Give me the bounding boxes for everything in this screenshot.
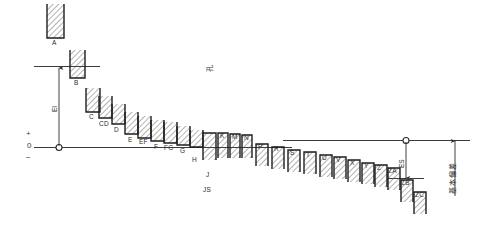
bar-letter-label: ZB (401, 180, 410, 187)
bar-letter-label: P (258, 144, 263, 151)
tolerance-bar-hatch (203, 133, 216, 160)
tolerance-bar (47, 4, 64, 38)
tolerance-bar (70, 50, 85, 78)
tolerance-bar (86, 88, 100, 112)
bar-letter-label: G (180, 148, 185, 155)
bars-layer (47, 4, 426, 214)
bar-letter-label: K (220, 133, 225, 140)
bar-letter-label: S (290, 150, 295, 157)
tolerance-bar-hatch (125, 112, 138, 134)
bar-letter-label: E (128, 137, 133, 144)
zero-sign-label: 0 (27, 142, 32, 150)
tolerance-bar (112, 104, 125, 124)
tolerance-bar-hatch (47, 4, 64, 38)
tolerance-bar-hatch (164, 122, 177, 143)
tolerance-bar (177, 126, 190, 145)
tolerance-bar-hatch (190, 130, 203, 147)
tolerance-zone-diagram: + 0 − EI ES 孔 基本偏差 JS ABCCDDEEFFFGGHJKMN… (0, 0, 491, 228)
bar-letter-label: V (336, 157, 341, 164)
bar-letter-label: ZC (415, 192, 424, 199)
bar-letter-label: X (350, 160, 355, 167)
bar-letter-label: FG (164, 145, 173, 152)
tolerance-bar (138, 116, 151, 138)
bar-letter-label: D (114, 127, 119, 134)
tolerance-bar (151, 120, 164, 141)
bar-letter-label: B (74, 80, 79, 87)
ei-label: EI (52, 106, 59, 112)
minus-sign-label: − (26, 154, 31, 162)
right-side-note: 基本偏差 (449, 162, 456, 194)
bar-letter-label: M (232, 134, 238, 141)
tolerance-bar (203, 133, 216, 160)
tolerance-bar-hatch (86, 88, 100, 112)
bar-letter-label: F (154, 144, 158, 151)
es-label: ES (399, 159, 406, 168)
zero-line-group (34, 145, 292, 151)
bar-letter-label: CD (99, 121, 109, 128)
bar-letter-label: Y (364, 163, 369, 170)
tolerance-bar-hatch (112, 104, 125, 124)
bar-letter-label: H (192, 157, 197, 164)
bar-letter-label: ZA (388, 168, 397, 175)
tolerance-bar (99, 96, 112, 118)
bar-letter-label: A (52, 40, 57, 47)
tolerance-bar (164, 122, 177, 143)
bar-letter-label: EF (139, 139, 148, 146)
plus-sign-label: + (26, 130, 31, 138)
tolerance-bar-hatch (99, 96, 112, 118)
bar-letter-label: U (322, 155, 327, 162)
js-label: JS (203, 187, 211, 194)
tolerance-bar-hatch (138, 116, 151, 138)
bar-letter-label: J (206, 172, 209, 179)
bar-letter-label: C (89, 114, 94, 121)
tolerance-bar (125, 112, 138, 134)
tolerance-bar-hatch (177, 126, 190, 145)
bar-letter-label: T (306, 152, 310, 159)
tolerance-bar-hatch (70, 50, 85, 78)
tolerance-bar (190, 130, 203, 147)
bar-letter-label: Z (377, 165, 381, 172)
bar-letter-label: N (244, 135, 249, 142)
top-center-note: 孔 (206, 64, 213, 72)
tolerance-bar-hatch (151, 120, 164, 141)
bar-letter-label: R (274, 146, 279, 153)
